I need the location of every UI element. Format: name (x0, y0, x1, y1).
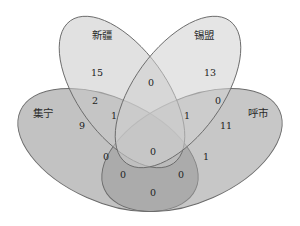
count-xinjiang-ximeng-huhehaote: 1 (184, 110, 190, 121)
count-xinjiang-jining: 2 (92, 95, 98, 106)
set-label-huhehaote: 呼市 (248, 107, 268, 119)
count-huhehaote-only: 11 (220, 120, 232, 131)
count-jining-huhehaote: 0 (150, 187, 156, 198)
count-jining-only: 9 (79, 120, 85, 131)
count-all-four: 0 (150, 146, 156, 157)
set-label-jining: 集宁 (33, 107, 53, 119)
count-xinjiang-jining-huhehaote: 0 (103, 151, 109, 162)
set-label-ximeng: 锡盟 (194, 29, 215, 41)
count-ximeng-only: 13 (204, 67, 216, 78)
count-jining-xinjiang-lower: 0 (120, 169, 126, 180)
count-ximeng-huhehaote-lower: 1 (203, 151, 209, 162)
count-xinjiang-ximeng-jining: 1 (111, 110, 117, 121)
venn-diagram: 新疆 锡盟 集宁 呼市 15 13 9 11 0 2 0 1 1 0 0 1 0… (0, 0, 300, 226)
count-ximeng-huhehaote: 0 (215, 95, 221, 106)
count-xinjiang-only: 15 (91, 67, 103, 78)
count-xinjiang-ximeng: 0 (148, 77, 154, 88)
set-label-xinjiang: 新疆 (92, 29, 113, 41)
count-ximeng-jining-huhehaote: 0 (178, 169, 184, 180)
